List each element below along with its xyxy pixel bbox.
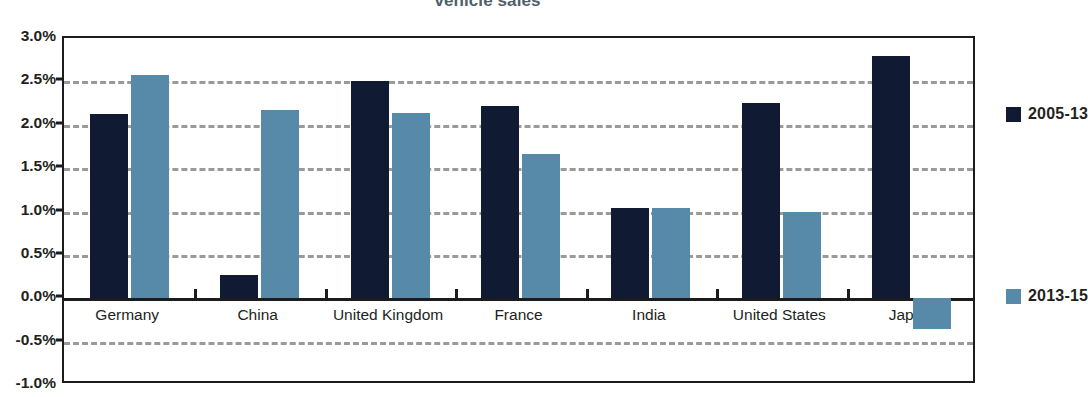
bar-2005-13-france: [481, 106, 519, 299]
legend-label: 2013-15: [1028, 287, 1088, 305]
bar-2005-13-united-kingdom: [351, 81, 389, 298]
legend-swatch-icon: [1006, 289, 1021, 304]
bar-2013-15-china: [261, 110, 299, 298]
x-axis-label-united-states: United States: [733, 306, 826, 324]
y-axis-tick-label: -1.0%: [0, 374, 56, 392]
bar-2013-15-united-states: [783, 212, 821, 298]
x-axis-tick-mark: [325, 289, 328, 298]
bar-2013-15-japan: [913, 298, 951, 328]
bar-2013-15-germany: [131, 75, 169, 298]
y-axis-tick-label: 0.0%: [0, 287, 56, 305]
x-axis-tick-mark: [586, 289, 589, 298]
legend-label: 2005-13: [1028, 105, 1088, 123]
legend-entry-2005-13[interactable]: 2005-13: [1006, 105, 1088, 123]
y-axis-tick-label: 3.0%: [0, 27, 56, 45]
y-axis-tick-label: 2.5%: [0, 70, 56, 88]
gridline: [64, 342, 973, 345]
plot-area: [62, 36, 975, 383]
zero-axis-line: [64, 298, 973, 301]
y-axis-tick-label: 2.0%: [0, 114, 56, 132]
x-axis-tick-mark: [194, 289, 197, 298]
legend-entry-2013-15[interactable]: 2013-15: [1006, 287, 1088, 305]
gridline: [64, 81, 973, 84]
bar-2005-13-germany: [90, 114, 128, 298]
y-axis-tick-label: -0.5%: [0, 331, 56, 349]
bar-2013-15-united-kingdom: [392, 113, 430, 299]
x-axis-tick-mark: [847, 289, 850, 298]
x-axis-tick-mark: [716, 289, 719, 298]
y-axis-tick-label: 0.5%: [0, 244, 56, 262]
bar-2013-15-india: [652, 208, 690, 298]
bar-2005-13-india: [611, 208, 649, 298]
y-axis-tick-label: 1.5%: [0, 157, 56, 175]
bar-2005-13-china: [220, 275, 258, 298]
x-axis-label-united-kingdom: United Kingdom: [333, 306, 443, 324]
legend-swatch-icon: [1006, 107, 1021, 122]
x-axis-label-france: France: [494, 306, 542, 324]
x-axis-tick-mark: [455, 289, 458, 298]
plot-inner: [64, 38, 973, 381]
bar-2005-13-japan: [872, 56, 910, 298]
x-axis-label-india: India: [632, 306, 666, 324]
bar-2013-15-france: [522, 154, 560, 298]
x-axis-label-germany: Germany: [95, 306, 159, 324]
bar-2005-13-united-states: [742, 103, 780, 298]
y-axis-tick-label: 1.0%: [0, 201, 56, 219]
x-axis-label-china: China: [237, 306, 278, 324]
